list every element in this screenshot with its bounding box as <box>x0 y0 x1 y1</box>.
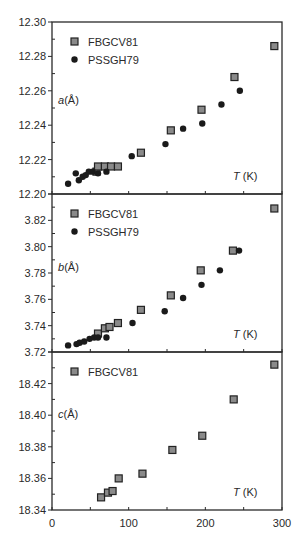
y-tick-label: 3.80 <box>25 241 46 253</box>
legend-label: FBGCV81 <box>88 366 138 378</box>
data-point-square <box>271 361 278 368</box>
panel-a: 12.2012.2212.2412.2612.2812.30a(Å)T (K)F… <box>18 16 282 200</box>
y-tick-label: 12.28 <box>18 50 46 62</box>
data-point-dot <box>95 170 101 176</box>
data-point-square <box>137 149 144 156</box>
legend-square-marker-icon <box>71 38 78 45</box>
y-tick-label: 3.76 <box>25 293 46 305</box>
data-point-dot <box>199 120 205 126</box>
data-point-square <box>199 432 206 439</box>
data-point-dot <box>162 141 168 147</box>
data-point-dot <box>95 334 101 340</box>
legend-label: PSSGH79 <box>88 54 139 66</box>
data-point-square <box>230 396 237 403</box>
data-point-square <box>139 470 146 477</box>
data-point-dot <box>237 88 243 94</box>
x-axis-label: T (K) <box>233 170 257 182</box>
legend-square-marker-icon <box>71 368 78 375</box>
y-tick-label: 3.74 <box>25 320 46 332</box>
legend: FBGCV81 <box>71 366 138 378</box>
data-point-dot <box>65 180 71 186</box>
x-tick-label: 0 <box>49 517 55 529</box>
data-point-square <box>229 247 236 254</box>
data-point-dot <box>180 295 186 301</box>
data-point-dot <box>65 342 71 348</box>
x-axis-label: T (K) <box>233 486 257 498</box>
panel-c: 18.3418.3618.3818.4018.420100200300c(Å)T… <box>18 352 291 529</box>
y-tick-label: 18.42 <box>18 378 46 390</box>
data-point-square <box>115 475 122 482</box>
y-axis-label: a(Å) <box>58 94 79 106</box>
data-point-dot <box>129 320 135 326</box>
data-point-dot <box>103 334 109 340</box>
data-point-square <box>98 494 105 501</box>
series-pssgh79 <box>65 247 242 348</box>
data-point-square <box>167 127 174 134</box>
series-fbgcv81 <box>95 205 278 337</box>
data-point-dot <box>217 267 223 273</box>
x-axis-label: T (K) <box>233 328 257 340</box>
data-point-dot <box>218 101 224 107</box>
data-point-square <box>106 323 113 330</box>
lattice-parameter-chart: 12.2012.2212.2412.2612.2812.30a(Å)T (K)F… <box>0 0 303 542</box>
data-point-dot <box>73 170 79 176</box>
data-point-square <box>114 163 121 170</box>
data-point-square <box>169 446 176 453</box>
legend: FBGCV81PSSGH79 <box>71 36 139 66</box>
data-point-square <box>231 74 238 81</box>
y-tick-label: 12.30 <box>18 16 46 28</box>
plot-frame <box>52 22 282 194</box>
y-axis-label: b(Å) <box>58 261 79 273</box>
data-point-square <box>95 163 102 170</box>
data-point-dot <box>198 282 204 288</box>
series-fbgcv81 <box>98 361 278 501</box>
legend-dot-marker-icon <box>71 228 77 234</box>
x-tick-label: 100 <box>119 517 137 529</box>
y-tick-label: 3.82 <box>25 214 46 226</box>
y-tick-label: 12.20 <box>18 188 46 200</box>
legend-label: FBGCV81 <box>88 36 138 48</box>
y-tick-label: 12.24 <box>18 119 46 131</box>
y-tick-label: 18.34 <box>18 504 46 516</box>
legend-square-marker-icon <box>71 210 78 217</box>
data-point-square <box>198 106 205 113</box>
data-point-dot <box>162 308 168 314</box>
data-point-square <box>167 292 174 299</box>
legend-label: FBGCV81 <box>88 208 138 220</box>
y-tick-label: 12.26 <box>18 85 46 97</box>
data-point-square <box>197 267 204 274</box>
data-point-square <box>114 320 121 327</box>
legend-label: PSSGH79 <box>88 226 139 238</box>
panel-b: 3.723.743.763.783.803.82b(Å)T (K)FBGCV81… <box>25 194 282 358</box>
data-point-dot <box>103 168 109 174</box>
y-tick-label: 18.38 <box>18 441 46 453</box>
y-tick-label: 12.22 <box>18 154 46 166</box>
x-tick-label: 200 <box>196 517 214 529</box>
series-pssgh79 <box>65 88 243 187</box>
y-tick-label: 18.40 <box>18 409 46 421</box>
legend: FBGCV81PSSGH79 <box>71 208 139 238</box>
data-point-square <box>271 43 278 50</box>
data-point-square <box>108 163 115 170</box>
y-tick-label: 3.78 <box>25 267 46 279</box>
data-point-square <box>137 306 144 313</box>
y-tick-label: 3.72 <box>25 346 46 358</box>
y-axis-label: c(Å) <box>58 408 78 420</box>
data-point-square <box>109 488 116 495</box>
data-point-dot <box>180 125 186 131</box>
data-point-dot <box>129 153 135 159</box>
data-point-dot <box>236 247 242 253</box>
data-point-square <box>271 205 278 212</box>
legend-dot-marker-icon <box>71 56 77 62</box>
y-tick-label: 18.36 <box>18 472 46 484</box>
x-tick-label: 300 <box>273 517 291 529</box>
